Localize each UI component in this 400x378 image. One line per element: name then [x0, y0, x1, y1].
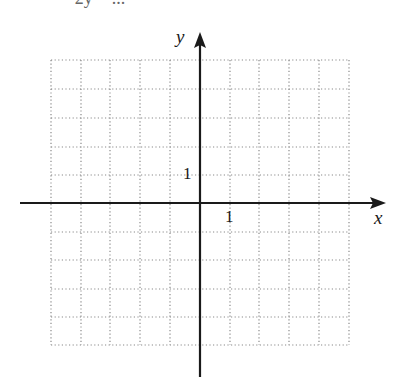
x-tick-label: 1 [225, 207, 234, 227]
axes [20, 32, 386, 377]
x-axis-label: x [374, 207, 382, 229]
y-tick-label: 1 [183, 164, 192, 184]
y-axis-label: y [176, 26, 184, 48]
coordinate-plane [0, 0, 400, 378]
